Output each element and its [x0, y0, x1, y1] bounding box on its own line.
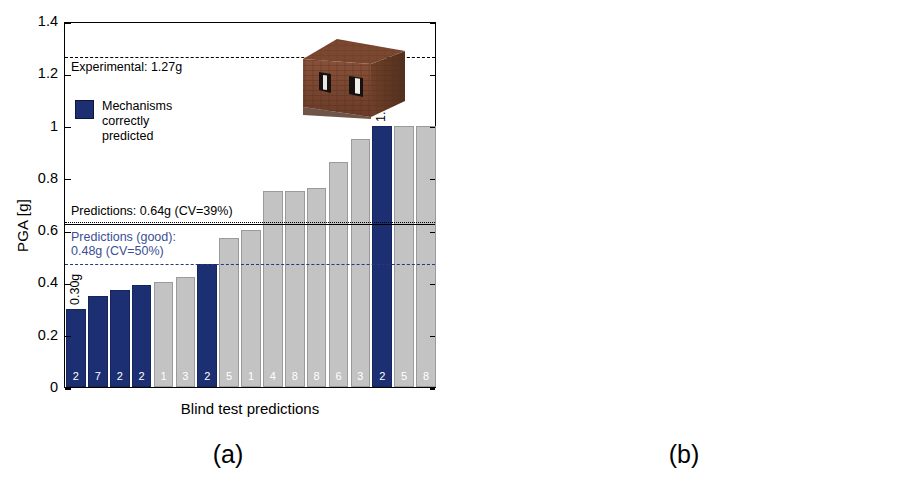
bar-mechanism-label: 2 [111, 371, 129, 382]
y-tick-mark [430, 284, 435, 285]
bar[interactable]: 2 [132, 285, 152, 387]
y-tick-mark [65, 179, 71, 180]
bar-mechanism-label: 3 [352, 371, 370, 382]
y-tick-mark [65, 336, 71, 337]
bar[interactable]: 2 [66, 309, 86, 387]
y-tick-mark [430, 75, 435, 76]
legend-label-a: Mechanisms correctly predicted [102, 99, 172, 143]
bar[interactable]: 6 [329, 162, 349, 387]
panel-a: PGA [g] Blind test predictions (a) 27221… [0, 0, 456, 499]
bar[interactable]: 1 [241, 230, 261, 387]
bar[interactable]: 8 [285, 191, 305, 387]
y-tick-mark [65, 22, 71, 23]
figure-root: PGA [g] Blind test predictions (a) 27221… [0, 0, 913, 499]
y-tick-mark [430, 336, 435, 337]
bar[interactable]: 2 [197, 264, 217, 387]
y-tick-label: 0.4 [12, 274, 58, 290]
y-tick-mark [65, 75, 71, 76]
reference-line-predictions-good [65, 264, 435, 265]
y-tick-mark [65, 232, 71, 233]
reference-line-label-experimental: Experimental: 1.27g [71, 60, 182, 74]
bar-mechanism-label: 4 [264, 371, 282, 382]
brick-house-photo [293, 31, 411, 119]
y-tick-mark [430, 127, 435, 128]
y-tick-mark [430, 179, 435, 180]
panel-b: PGA [g] Blind test predictions (b) 71251… [456, 0, 912, 499]
y-tick-label: 0.2 [12, 327, 58, 343]
bar-mechanism-label: 8 [417, 371, 435, 382]
bar-mechanism-label: 5 [220, 371, 238, 382]
bar-mechanism-label: 3 [177, 371, 195, 382]
bar-mechanism-label: 5 [395, 371, 413, 382]
bar-mechanism-label: 8 [308, 371, 326, 382]
bar-mechanism-label: 7 [89, 371, 107, 382]
y-tick-mark [430, 22, 435, 23]
bar-mechanism-label: 6 [330, 371, 348, 382]
bar-mechanism-label: 1 [242, 371, 260, 382]
bar-mechanism-label: 2 [198, 371, 216, 382]
x-axis-label-a: Blind test predictions [64, 400, 436, 417]
bar[interactable]: 2 [110, 290, 130, 387]
plot-area-a: 272213251488632580.30g1.00g Experimental… [64, 22, 436, 388]
y-tick-mark [430, 232, 435, 233]
y-tick-label: 1 [12, 118, 58, 134]
y-tick-mark [65, 127, 71, 128]
reference-line-predictions-solid [65, 224, 435, 225]
y-tick-mark [65, 284, 71, 285]
y-tick-label: 0.8 [12, 170, 58, 186]
y-tick-mark [430, 388, 435, 389]
bar[interactable]: 5 [219, 238, 239, 387]
bar[interactable]: 7 [88, 296, 108, 388]
y-tick-label: 0 [12, 379, 58, 395]
y-tick-label: 1.2 [12, 65, 58, 81]
y-tick-label: 0.6 [12, 222, 58, 238]
bar-mechanism-label: 2 [133, 371, 151, 382]
bar[interactable]: 4 [263, 191, 283, 387]
bar-mechanism-label: 1 [155, 371, 173, 382]
bar[interactable]: 8 [307, 188, 327, 387]
bar[interactable]: 2 [372, 126, 392, 387]
reference-line-label-predictions-good: Predictions (good): 0.48g (CV=50%) [71, 230, 176, 259]
panel-b-caption: (b) [456, 440, 912, 469]
bar[interactable]: 1 [154, 282, 174, 387]
y-tick-mark [65, 388, 71, 389]
bar[interactable]: 8 [416, 126, 436, 387]
bar-mechanism-label: 2 [67, 371, 85, 382]
legend-swatch-icon [75, 100, 94, 119]
bar-value-annotation: 0.30g [68, 273, 82, 304]
y-tick-label: 1.4 [12, 13, 58, 29]
bar[interactable]: 3 [176, 277, 196, 387]
bar-mechanism-label: 8 [286, 371, 304, 382]
bar[interactable]: 5 [394, 126, 414, 387]
legend-a: Mechanisms correctly predicted [75, 99, 172, 143]
panel-a-caption: (a) [0, 440, 456, 469]
reference-line-predictions [65, 222, 435, 223]
bar-mechanism-label: 2 [373, 371, 391, 382]
reference-line-label-predictions: Predictions: 0.64g (CV=39%) [71, 204, 233, 218]
